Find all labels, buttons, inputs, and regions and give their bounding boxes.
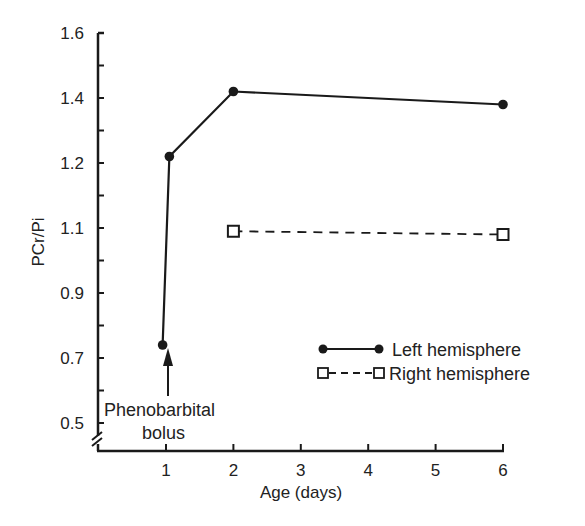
- x-tick-label: 4: [363, 461, 372, 480]
- data-point-marker: [229, 87, 239, 97]
- data-point-marker: [165, 152, 175, 162]
- open-square-marker-icon: [318, 368, 328, 378]
- line-chart: 1.61.41.21.10.90.70.5 123456 PCr/Pi Age …: [0, 0, 585, 526]
- x-tick-label: 2: [229, 461, 238, 480]
- open-square-marker-icon: [374, 368, 384, 378]
- y-axis: 1.61.41.21.10.90.70.5: [60, 24, 104, 451]
- legend-label-right: Right hemisphere: [389, 364, 530, 384]
- annotation-line-1: Phenobarbital: [104, 400, 215, 420]
- annotation-line-2: bolus: [142, 423, 185, 443]
- data-point-marker: [228, 226, 239, 237]
- series-layer: [158, 87, 509, 350]
- y-tick-label: 1.4: [60, 89, 84, 108]
- data-point-marker: [498, 229, 509, 240]
- legend-item-right-hemisphere: Right hemisphere: [318, 364, 530, 384]
- y-tick-label: 1.1: [60, 219, 84, 238]
- x-tick-label: 5: [431, 461, 440, 480]
- x-tick-label: 3: [296, 461, 305, 480]
- x-tick-label: 6: [498, 461, 507, 480]
- legend: Left hemisphere Right hemisphere: [318, 340, 530, 384]
- y-axis-title: PCr/Pi: [29, 217, 48, 266]
- series-left-hemisphere: [158, 87, 508, 350]
- x-axis-title: Age (days): [260, 483, 342, 502]
- y-tick-label: 0.7: [60, 349, 84, 368]
- legend-label-left: Left hemisphere: [392, 340, 521, 360]
- data-point-marker: [158, 340, 168, 350]
- filled-circle-marker-icon: [375, 345, 384, 354]
- x-tick-label: 1: [161, 461, 170, 480]
- y-tick-label: 1.2: [60, 154, 84, 173]
- y-tick-label: 0.5: [60, 414, 84, 433]
- arrow-up-icon: [163, 348, 173, 366]
- y-tick-label: 0.9: [60, 284, 84, 303]
- x-axis: 123456: [97, 444, 508, 480]
- filled-circle-marker-icon: [319, 345, 328, 354]
- phenobarbital-annotation: Phenobarbital bolus: [104, 348, 215, 443]
- legend-item-left-hemisphere: Left hemisphere: [319, 340, 522, 360]
- data-point-marker: [498, 100, 508, 110]
- y-tick-label: 1.6: [60, 24, 84, 43]
- series-right-hemisphere: [228, 226, 509, 240]
